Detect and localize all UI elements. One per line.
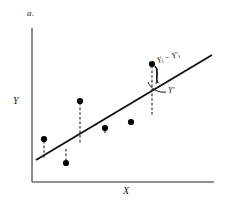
data-point (63, 160, 69, 166)
scatter-plot (0, 0, 228, 211)
figure-panel: a. Y X (0, 0, 228, 211)
data-point (41, 136, 47, 142)
regression-line (36, 55, 212, 160)
predicted-value-annotation: Y′ (168, 86, 174, 95)
data-point (128, 119, 134, 125)
residual-droplines (44, 66, 152, 161)
data-points (41, 61, 155, 166)
y-axis-label: Y (13, 95, 19, 106)
x-axis-label: X (123, 185, 129, 196)
data-point (102, 125, 108, 131)
residual-leader (155, 67, 157, 84)
data-point (77, 98, 83, 104)
data-point (149, 61, 155, 67)
